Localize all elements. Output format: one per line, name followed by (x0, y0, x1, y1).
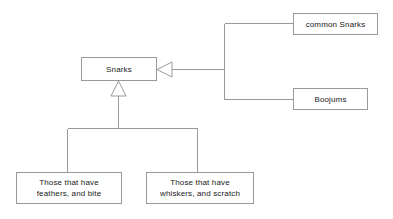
connector-bottom-group (68, 96, 198, 172)
class-node-snarks-label: Snarks (103, 64, 135, 75)
class-node-common-snarks-label: common Snarks (303, 19, 369, 30)
class-node-feathers-and-bite-label: Those that have feathers, and bite (34, 177, 105, 199)
class-node-feathers-and-bite[interactable]: Those that have feathers, and bite (16, 172, 122, 204)
class-node-boojums-label: Boojums (311, 94, 349, 105)
class-node-common-snarks[interactable]: common Snarks (293, 13, 378, 35)
generalization-triangle-left-icon (157, 62, 172, 77)
class-node-boojums[interactable]: Boojums (293, 88, 368, 110)
diagram-canvas: Snarks common Snarks Boojums Those that … (0, 0, 393, 219)
connector-right-group (172, 24, 293, 100)
class-node-snarks[interactable]: Snarks (81, 57, 157, 81)
class-node-whiskers-and-scratch[interactable]: Those that have whiskers, and scratch (146, 172, 254, 204)
class-node-whiskers-and-scratch-label: Those that have whiskers, and scratch (157, 177, 243, 199)
generalization-triangle-up-icon (111, 81, 126, 96)
